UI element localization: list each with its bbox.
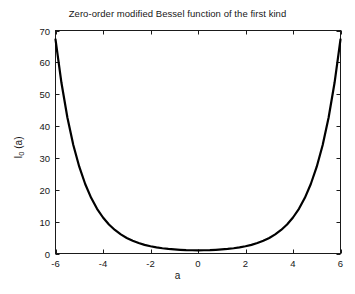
y-axis-label-subscript: 0	[17, 152, 26, 156]
x-tick-label: 4	[290, 258, 295, 269]
plot-axes	[0, 0, 355, 294]
y-tick-label: 70	[22, 25, 50, 36]
x-tick-label: -2	[146, 258, 154, 269]
y-tick-label: 20	[22, 184, 50, 195]
y-axis-label-main: I	[13, 156, 24, 159]
x-tick-label: 2	[243, 258, 248, 269]
y-tick-label: 30	[22, 152, 50, 163]
y-tick-label: 40	[22, 121, 50, 132]
axes-frame	[56, 31, 341, 254]
y-tick-label: 10	[22, 216, 50, 227]
x-tick-label: 6	[338, 258, 343, 269]
y-tick-label: 50	[22, 89, 50, 100]
tick-marks	[56, 31, 342, 255]
bessel-curve	[56, 39, 341, 250]
figure-canvas: Zero-order modified Bessel function of t…	[0, 0, 355, 294]
x-tick-label: -4	[99, 258, 107, 269]
y-tick-label: 60	[22, 57, 50, 68]
x-tick-label: 0	[195, 258, 200, 269]
y-tick-label: 0	[22, 248, 50, 259]
x-axis-label: a	[0, 270, 355, 281]
axes-box	[56, 31, 341, 254]
x-tick-label: -6	[51, 258, 59, 269]
y-axis-label: I0 (a)	[13, 118, 24, 178]
y-axis-label-tail: (a)	[13, 137, 24, 152]
